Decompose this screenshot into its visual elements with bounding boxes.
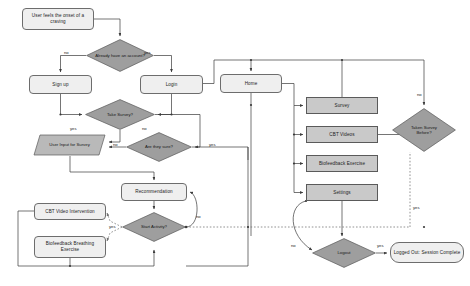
node-menu-survey[interactable]: Survey	[306, 97, 378, 114]
node-menu-biofeedback-exercise[interactable]: Biofeedback Exercise	[306, 155, 378, 172]
node-login[interactable]: Login	[140, 75, 203, 94]
node-biofeedback-breathing-exercise-label: Biofeedback Breathing Exercise	[36, 241, 104, 252]
node-recommendation-label: Recommendation	[135, 189, 172, 195]
node-menu-biofeedback-exercise-label: Biofeedback Exercise	[319, 161, 365, 167]
node-menu-survey-label: Survey	[335, 103, 350, 109]
node-signup[interactable]: Sign up	[29, 75, 92, 94]
node-are-they-sure-label: Are they sure?	[129, 132, 189, 162]
node-logout-label: Logout	[318, 238, 370, 268]
edge-label-no-start-activity: no	[196, 214, 201, 219]
node-already-have-account-label: Already have an account?	[90, 39, 150, 72]
edge-label-yes-start-activity: yes	[109, 224, 116, 229]
edge-label-yes-take-survey: yes	[70, 126, 77, 131]
node-signup-label: Sign up	[52, 82, 68, 88]
edge-label-no-account: no	[64, 50, 69, 55]
edge-label-yes-taken-before: yes	[413, 205, 420, 210]
edge-label-no-taken-before: no	[417, 92, 422, 97]
flowchart-canvas: User feels the onset of a craving Sign u…	[0, 0, 470, 286]
node-logged-out-label: Logged Out: Session Complete	[394, 250, 461, 256]
node-biofeedback-breathing-exercise[interactable]: Biofeedback Breathing Exercise	[34, 236, 106, 258]
edge-label-no-take-survey: no	[142, 126, 147, 131]
edge-label-no-are-they-sure: no	[113, 142, 118, 147]
node-menu-settings-label: Settings	[333, 190, 350, 196]
node-home-label: Home	[245, 81, 258, 87]
node-start[interactable]: User feels the onset of a craving	[22, 8, 94, 30]
node-start-activity-label: Start Activity?	[128, 212, 180, 242]
edge-label-yes-logout: yes	[377, 243, 384, 248]
node-login-label: Login	[166, 82, 178, 88]
node-user-input-survey-label: User Input for Survey	[33, 134, 106, 156]
edge-label-yes-account: yes	[144, 50, 151, 55]
node-start-label: User feels the onset of a craving	[24, 13, 92, 24]
node-cbt-video-intervention-label: CBT Video Intervention	[45, 209, 95, 215]
node-cbt-video-intervention[interactable]: CBT Video Intervention	[34, 203, 106, 220]
node-menu-cbt-videos-label: CBT Videos	[329, 132, 354, 138]
node-taken-survey-before-label: Taken Survey Before?	[404, 108, 444, 152]
node-menu-settings[interactable]: Settings	[306, 184, 378, 201]
node-recommendation[interactable]: Recommendation	[121, 183, 187, 201]
edge-label-no-logout: no	[291, 243, 296, 248]
node-logged-out[interactable]: Logged Out: Session Complete	[390, 242, 464, 263]
edge-label-yes-are-they-sure: yes	[209, 142, 216, 147]
node-home[interactable]: Home	[220, 74, 282, 93]
node-menu-cbt-videos[interactable]: CBT Videos	[306, 126, 378, 143]
